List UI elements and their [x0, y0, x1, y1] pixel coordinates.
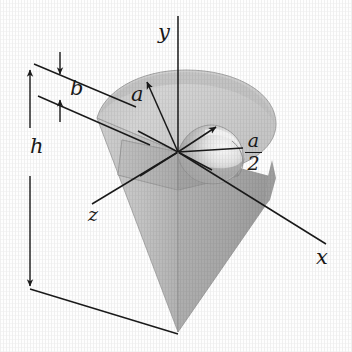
cone-diagram-svg: [0, 0, 352, 352]
dimension-label-h: h: [30, 136, 44, 157]
dimension-label-b: b: [70, 78, 83, 99]
axis-label-x: x: [316, 247, 328, 268]
cone-solid: [97, 70, 276, 332]
figure-canvas: y x z h b a a 2: [0, 0, 352, 352]
axis-label-y: y: [158, 22, 170, 43]
radius-a-over-2-numerator: a: [248, 131, 259, 151]
radius-label-a-over-2: a 2: [245, 131, 262, 174]
axis-label-z: z: [88, 205, 98, 224]
dimension-h-extension-lower: [30, 289, 178, 334]
radius-label-a: a: [131, 84, 144, 105]
radius-a-over-2-denominator: 2: [247, 154, 259, 174]
